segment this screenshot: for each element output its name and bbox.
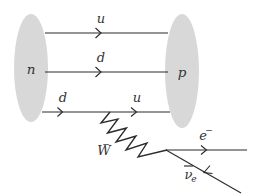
antineutrino-line: [166, 150, 241, 193]
quark-line-u-top-group: u: [45, 11, 168, 39]
quark-label-u-out: u: [133, 90, 141, 105]
neutron-blob-group: n: [14, 14, 48, 122]
w-boson-propagator: [101, 112, 167, 157]
antineutrino-subscript: e: [191, 174, 196, 184]
quark-line-d-middle-group: d: [45, 50, 168, 78]
quark-label-d-middle: d: [97, 50, 105, 65]
neutron-label: n: [27, 61, 36, 77]
electron-group: e −: [166, 125, 247, 155]
arrowhead-antineutrino-icon: [204, 166, 213, 174]
proton-label: p: [178, 64, 187, 80]
quark-label-u-top: u: [97, 11, 105, 26]
antineutrino-group: ν e: [166, 150, 241, 193]
feynman-diagram-svg: n p u d d u W −: [0, 0, 254, 196]
electron-superscript: −: [205, 125, 213, 135]
proton-blob-group: p: [165, 14, 199, 128]
w-boson-group: W −: [97, 112, 167, 158]
feynman-diagram-canvas: n p u d d u W −: [0, 0, 254, 196]
quark-label-d-in: d: [59, 90, 67, 105]
quark-line-bottom-group: d u: [42, 90, 170, 117]
w-boson-superscript: −: [102, 139, 110, 149]
